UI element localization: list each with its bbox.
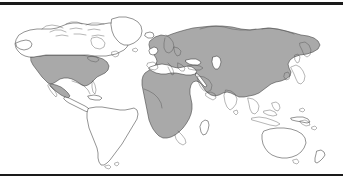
detail-southeast-asia [248,98,259,114]
world-map-svg [0,5,343,174]
detail-florida [92,81,96,94]
frame-bottom-rule [0,174,343,176]
region-northern-mexico-shaded [50,84,70,98]
region-south-america [87,107,138,165]
region-australia [262,128,306,158]
region-united-states-shaded [31,55,109,86]
map-canvas [0,5,343,174]
region-iceland [145,32,154,38]
region-caribbean-islands [88,95,102,100]
world-map-figure [0,0,343,184]
region-central-america [64,97,90,112]
detail-falklands [115,162,119,166]
detail-tierra-del-fuego [105,165,111,169]
detail-philippines [272,102,280,111]
detail-north-atlantic-islands [133,48,138,52]
detail-indonesia [252,110,280,126]
region-eurasia-africa-shaded [142,26,320,138]
region-madagascar [200,120,209,135]
detail-japan [291,65,305,84]
detail-sri-lanka [234,110,238,115]
region-new-zealand [315,150,325,163]
detail-tasmania [293,159,299,164]
